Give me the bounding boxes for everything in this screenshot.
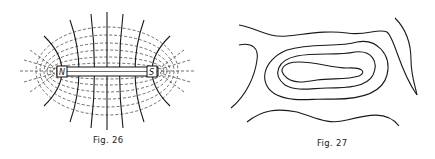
figure-caption: Fig. 26 <box>93 135 123 145</box>
contour-lines <box>231 18 417 126</box>
bar-magnet: N S <box>57 66 158 77</box>
contour-map-diagram <box>217 0 435 135</box>
figure-27: Fig. 27 <box>217 0 435 159</box>
north-pole-label: N <box>59 68 65 77</box>
south-pole-label: S <box>149 68 154 77</box>
bar-magnet-field-diagram: N S <box>0 0 218 135</box>
figure-26: N S Fig. 26 <box>0 0 218 159</box>
figure-caption: Fig. 27 <box>317 138 347 148</box>
